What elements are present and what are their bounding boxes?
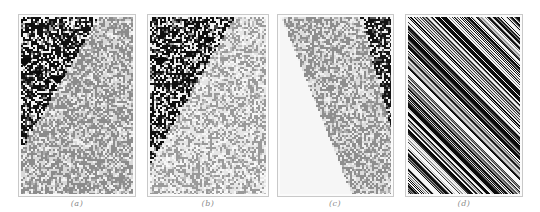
pattern-d-canvas bbox=[408, 17, 520, 194]
pattern-c-canvas bbox=[280, 17, 391, 194]
panel-d-cellular-automaton bbox=[405, 14, 523, 197]
panel-a-cellular-automaton bbox=[18, 14, 136, 197]
pattern-b-canvas bbox=[150, 17, 266, 194]
panel-c-cellular-automaton bbox=[277, 14, 394, 197]
caption-c: (c) bbox=[315, 199, 355, 208]
figure: (a) (b) (c) (d) bbox=[0, 0, 540, 212]
caption-a: (a) bbox=[57, 199, 97, 208]
panel-b-cellular-automaton bbox=[147, 14, 269, 197]
caption-d: (d) bbox=[444, 199, 484, 208]
caption-b: (b) bbox=[188, 199, 228, 208]
pattern-a-canvas bbox=[21, 17, 133, 194]
